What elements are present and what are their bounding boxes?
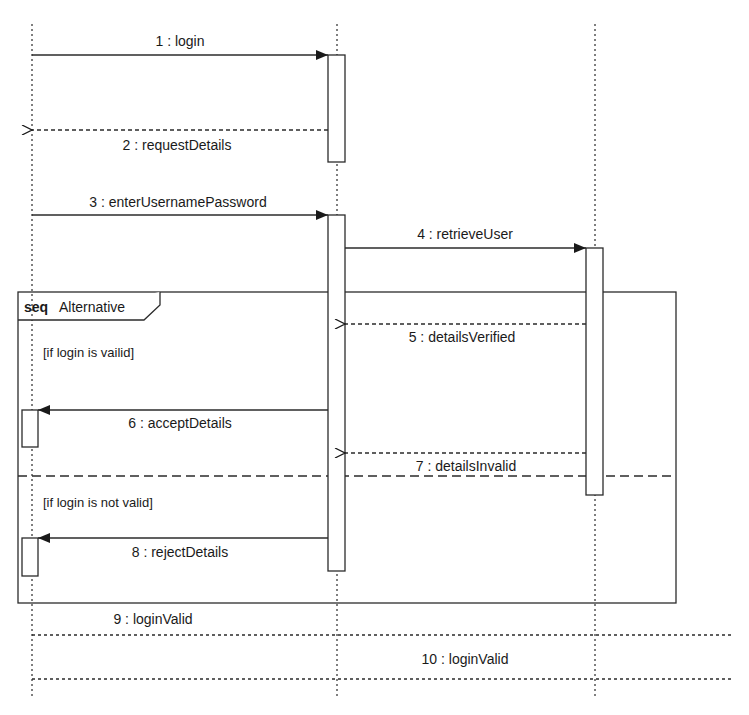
message-5-label: 5 : detailsVerified — [409, 329, 516, 345]
activation-left-2 — [22, 538, 38, 576]
message-9-label: 9 : loginValid — [113, 611, 192, 627]
activation-middle-2 — [328, 215, 345, 571]
message-6-label: 6 : acceptDetails — [128, 415, 232, 431]
combined-fragment-frame: seq Alternative [if login is vailid] [if… — [18, 292, 676, 603]
lifelines — [32, 24, 595, 698]
guard-valid: [if login is vailid] — [43, 345, 134, 360]
message-4-label: 4 : retrieveUser — [417, 226, 513, 242]
message-2-label: 2 : requestDetails — [123, 137, 232, 153]
activation-left-1 — [22, 410, 38, 447]
message-7-label: 7 : detailsInvalid — [416, 458, 516, 474]
activation-right-1 — [586, 248, 603, 495]
message-1-label: 1 : login — [155, 33, 204, 49]
frame-name: Alternative — [59, 299, 125, 315]
frame-keyword: seq — [24, 299, 48, 315]
message-8-label: 8 : rejectDetails — [132, 544, 228, 560]
sequence-diagram: seq Alternative [if login is vailid] [if… — [0, 0, 749, 715]
activation-middle-1 — [328, 55, 345, 162]
guard-not-valid: [if login is not valid] — [43, 495, 153, 510]
frame-border — [18, 292, 676, 603]
messages: 1 : login 2 : requestDetails 3 : enterUs… — [32, 33, 732, 679]
message-3-label: 3 : enterUsernamePassword — [89, 194, 266, 210]
message-10-label: 10 : loginValid — [422, 651, 509, 667]
